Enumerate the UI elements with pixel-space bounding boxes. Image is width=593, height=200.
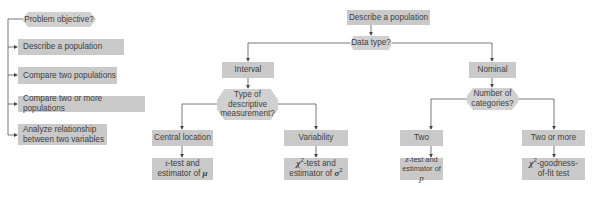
data-type-label: Data type? xyxy=(351,38,391,48)
result-line-2: estimator of xyxy=(289,169,334,178)
two-label: Two xyxy=(414,133,429,143)
central-location-label: Central location xyxy=(154,133,211,143)
option-label: Compare two populations xyxy=(23,71,116,81)
nominal-label: Nominal xyxy=(477,65,507,75)
z-test-text: z-test and estimator of p xyxy=(400,155,443,184)
data-type-decision: Data type? xyxy=(350,36,392,50)
descriptive-measurement-decision: Type of descriptive measurement? xyxy=(217,89,278,120)
chi-square-test-text: χ2-test and estimator of σ2 xyxy=(289,159,342,178)
two-or-more-node: Two or more xyxy=(522,130,585,146)
problem-objective-decision: Problem objective? xyxy=(22,12,96,27)
t-test-result: t-test and estimator of μ xyxy=(152,158,213,180)
two-node: Two xyxy=(400,130,443,146)
p-symbol: p xyxy=(419,173,424,183)
variability-node: Variability xyxy=(284,130,348,146)
two-or-more-label: Two or more xyxy=(531,133,577,143)
result-line-1: -test and xyxy=(409,155,438,164)
goodness-of-fit-text: χ2-goodness- of-fit test xyxy=(529,159,578,178)
result-line-2: estimator of xyxy=(157,169,202,178)
chi-square-test-result: χ2-test and estimator of σ2 xyxy=(284,158,348,180)
option-analyze-relationship: Analyze relationship between two variabl… xyxy=(18,124,107,145)
result-line-1: -test and xyxy=(168,159,200,168)
central-location-node: Central location xyxy=(152,130,213,146)
mu-symbol: μ xyxy=(203,168,208,178)
option-compare-two-or-more-populations: Compare two or more populations xyxy=(18,96,145,112)
measurement-question-label: Type of descriptive measurement? xyxy=(220,90,275,119)
interval-node: Interval xyxy=(222,62,274,78)
result-line-1: -goodness- xyxy=(537,159,578,168)
root-label: Describe a population xyxy=(349,13,428,23)
result-line-1: -test and xyxy=(304,159,336,168)
option-label: Describe a population xyxy=(23,42,102,52)
problem-objective-label: Problem objective? xyxy=(24,15,94,25)
chi-square-goodness-of-fit-result: χ2-goodness- of-fit test xyxy=(522,158,585,180)
superscript: 2 xyxy=(339,167,342,173)
result-line-2: of-fit test xyxy=(538,169,569,178)
categories-question-label: Number of categories? xyxy=(471,89,514,108)
nominal-node: Nominal xyxy=(469,62,516,78)
z-test-result: z-test and estimator of p xyxy=(400,158,443,180)
t-test-text: t-test and estimator of μ xyxy=(157,159,207,178)
variability-label: Variability xyxy=(299,133,334,143)
option-compare-two-populations: Compare two populations xyxy=(18,67,117,84)
number-of-categories-decision: Number of categories? xyxy=(467,88,518,110)
option-describe-population: Describe a population xyxy=(18,39,124,55)
option-label: Compare two or more populations xyxy=(23,94,145,113)
option-label: Analyze relationship between two variabl… xyxy=(23,125,104,144)
interval-label: Interval xyxy=(235,65,262,75)
root-describe-population: Describe a population xyxy=(347,10,430,25)
